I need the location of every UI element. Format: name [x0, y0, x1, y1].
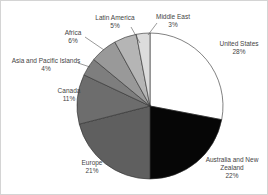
leader-line	[85, 37, 104, 50]
slice-label: Asia and Pacific Islands	[12, 57, 81, 64]
slice-percent: 11%	[63, 95, 76, 102]
slice-label: United States	[219, 40, 259, 47]
slice-percent: 21%	[85, 167, 98, 174]
slice-percent: 22%	[225, 172, 238, 179]
slice-percent: 28%	[232, 48, 245, 55]
pie-slice	[150, 33, 223, 120]
chart-area: United States28%Australia and NewZealand…	[0, 0, 268, 195]
slice-percent: 6%	[68, 37, 78, 44]
slice-label: Australia and New	[206, 156, 259, 163]
slice-percent: 5%	[110, 22, 120, 29]
pie-chart: United States28%Australia and NewZealand…	[1, 1, 268, 195]
slice-percent: 3%	[168, 21, 178, 28]
slice-label: Zealand	[220, 164, 244, 171]
slice-label: Middle East	[156, 13, 190, 20]
slice-label: Canada	[58, 87, 81, 94]
slice-label: Latin America	[95, 14, 135, 21]
slice-percent: 4%	[41, 65, 51, 72]
slice-label: Europe	[82, 159, 103, 167]
slice-label: Africa	[65, 29, 82, 36]
